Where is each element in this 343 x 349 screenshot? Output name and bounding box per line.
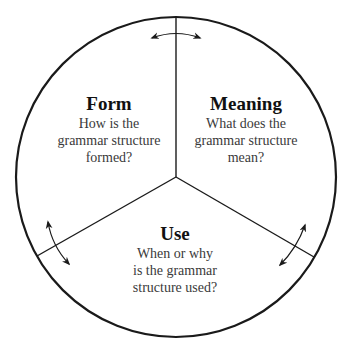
section-title-meaning: Meaning xyxy=(210,93,282,114)
section-meaning: Meaning What does the grammar structure … xyxy=(194,93,297,165)
section-line: grammar structure xyxy=(57,133,160,148)
section-line: mean? xyxy=(228,150,265,165)
section-form: Form How is the grammar structure formed… xyxy=(57,93,160,165)
section-line: What does the xyxy=(206,116,286,131)
divider-form-use xyxy=(37,177,176,256)
section-line: When or why xyxy=(137,246,213,261)
section-line: formed? xyxy=(86,150,133,165)
section-use: Use When or why is the grammar structure… xyxy=(133,223,217,295)
section-title-form: Form xyxy=(86,93,132,114)
section-title-use: Use xyxy=(160,223,190,244)
section-line: How is the xyxy=(79,116,140,131)
section-line: is the grammar xyxy=(133,263,217,278)
section-line: grammar structure xyxy=(194,133,297,148)
divider-meaning-use xyxy=(176,177,314,257)
form-meaning-use-diagram: Form How is the grammar structure formed… xyxy=(0,0,343,349)
section-line: structure used? xyxy=(133,280,217,295)
